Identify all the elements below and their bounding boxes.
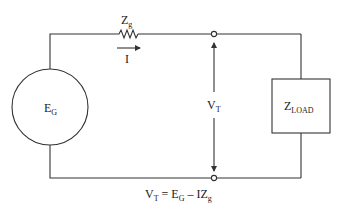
top-terminal-icon [211,31,216,36]
top-wire [50,34,301,79]
load-label: ZLOAD [284,99,314,115]
source-label: EG [44,101,57,117]
terminal-voltage-label: VT [207,98,221,114]
bottom-terminal-icon [211,175,216,180]
circuit-diagram: Zg I EG VT ZLOAD VT = EG – IZg [0,0,344,210]
series-impedance-label: Zg [121,13,132,29]
terminal-voltage-equation: VT = EG – IZg [145,187,212,203]
current-label: I [125,52,129,66]
series-impedance-resistor-icon [117,30,138,38]
bottom-wire [50,133,301,178]
